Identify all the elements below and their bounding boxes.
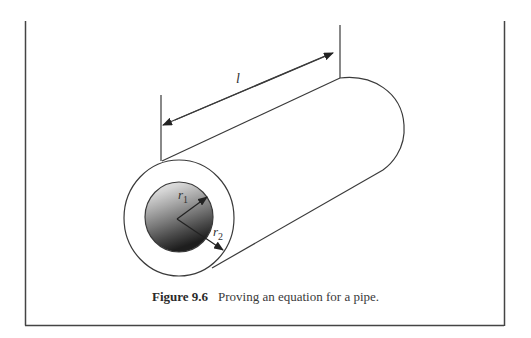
figure-frame: l r1 r2 Figure 9.6Proving an equation fo… [0, 0, 531, 338]
figure-number: Figure 9.6 [152, 289, 208, 304]
caption-text: Proving an equation for a pipe. [218, 289, 379, 304]
pipe-diagram: l r1 r2 [0, 0, 531, 338]
length-label: l [236, 71, 240, 86]
figure-caption: Figure 9.6Proving an equation for a pipe… [0, 289, 531, 305]
frame-border [25, 21, 505, 326]
length-dimension [161, 25, 340, 161]
